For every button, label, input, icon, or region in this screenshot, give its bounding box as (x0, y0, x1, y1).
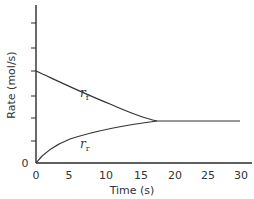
x-tick-label: 20 (168, 169, 182, 182)
rate-vs-time-chart: 0 0 5 10 15 20 25 30 Time (s) Rate (mol/… (0, 0, 254, 199)
x-tick-label: 15 (134, 169, 148, 182)
rf-curve (36, 71, 240, 121)
x-tick-label: 30 (234, 169, 248, 182)
x-tick-label: 0 (33, 169, 40, 182)
rr-curve (36, 121, 157, 163)
x-axis-title: Time (s) (109, 184, 155, 197)
y-ticks (31, 23, 36, 141)
x-tick-label: 25 (201, 169, 215, 182)
x-tick-label: 5 (66, 169, 73, 182)
x-tick-labels: 0 5 10 15 20 25 30 (33, 169, 249, 182)
y-tick-label-zero: 0 (22, 157, 29, 170)
rf-label: rf (80, 86, 90, 102)
rr-label: rr (80, 137, 90, 153)
x-tick-label: 10 (99, 169, 113, 182)
y-axis-title: Rate (mol/s) (5, 51, 18, 118)
